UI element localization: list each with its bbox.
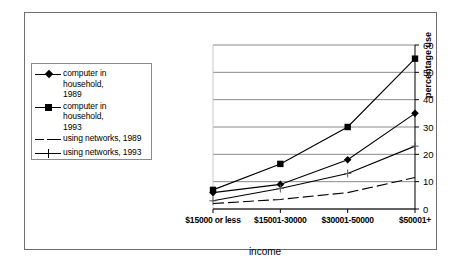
data-point-square — [210, 187, 216, 193]
y-tick-label: 20 — [423, 149, 434, 160]
diamond-marker-icon — [35, 69, 61, 81]
y-tick-label: 30 — [423, 122, 434, 133]
x-axis-title: income — [205, 246, 325, 257]
cross-marker-icon — [35, 148, 61, 160]
y-tick-label: 0 — [423, 204, 428, 215]
data-point-square — [344, 124, 350, 130]
chart-plot-area: 0102030405060 $15000 or less$15001-30000… — [185, 27, 435, 242]
chart-outer-frame: computer in household, 1989 computer in … — [24, 12, 437, 250]
data-point-square — [277, 161, 283, 167]
legend-item-networks-1989: using networks, 1989 — [35, 133, 148, 146]
legend-item-computer-1989: computer in household, 1989 — [35, 68, 148, 100]
legend-item-computer-1993: computer in household, 1993 — [35, 101, 148, 133]
legend-item-label: computer in household, 1993 — [61, 101, 148, 133]
x-tick-label: $50001+ — [375, 216, 455, 225]
y-axis-title: percentage use — [423, 32, 433, 98]
legend-item-label: using networks, 1989 — [61, 133, 141, 144]
legend-item-label: computer in household, 1989 — [61, 68, 148, 100]
y-tick-label: 10 — [423, 176, 434, 187]
dashed-line-icon — [35, 134, 61, 146]
chart-svg: 0102030405060 — [185, 27, 435, 242]
square-marker-icon — [35, 102, 61, 114]
legend-item-label: using networks, 1993 — [61, 147, 141, 158]
data-point-square — [412, 55, 418, 61]
legend-item-networks-1993: using networks, 1993 — [35, 147, 148, 160]
chart-legend: computer in household, 1989 computer in … — [31, 63, 152, 160]
